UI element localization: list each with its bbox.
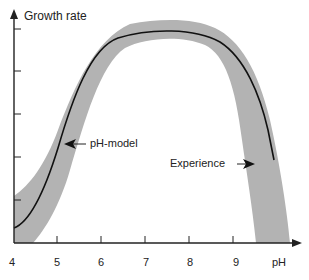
ph-model-label: pH-model bbox=[90, 137, 138, 149]
experience-band bbox=[14, 20, 290, 243]
y-axis-arrow-icon bbox=[10, 9, 18, 19]
x-tick-label: 5 bbox=[54, 256, 60, 268]
x-tick-label: 9 bbox=[233, 256, 239, 268]
x-tick-label: 4 bbox=[9, 256, 15, 268]
x-ticks bbox=[57, 236, 233, 243]
chart-canvas bbox=[0, 0, 309, 280]
x-axis-arrow-icon bbox=[292, 239, 302, 247]
x-tick-label: 8 bbox=[187, 256, 193, 268]
y-axis-label: Growth rate bbox=[24, 9, 87, 23]
x-tick-label: 7 bbox=[143, 256, 149, 268]
y-ticks bbox=[14, 29, 21, 200]
experience-label: Experience bbox=[170, 157, 225, 169]
x-tick-label: 6 bbox=[98, 256, 104, 268]
x-axis-label: pH bbox=[272, 256, 286, 268]
